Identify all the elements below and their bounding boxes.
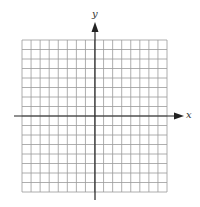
y-axis-label: y: [92, 8, 98, 19]
y-axis-arrow-icon: [92, 22, 99, 32]
x-axis-arrow-icon: [174, 113, 184, 120]
coordinate-grid: [0, 0, 200, 207]
x-axis-label: x: [186, 109, 192, 120]
